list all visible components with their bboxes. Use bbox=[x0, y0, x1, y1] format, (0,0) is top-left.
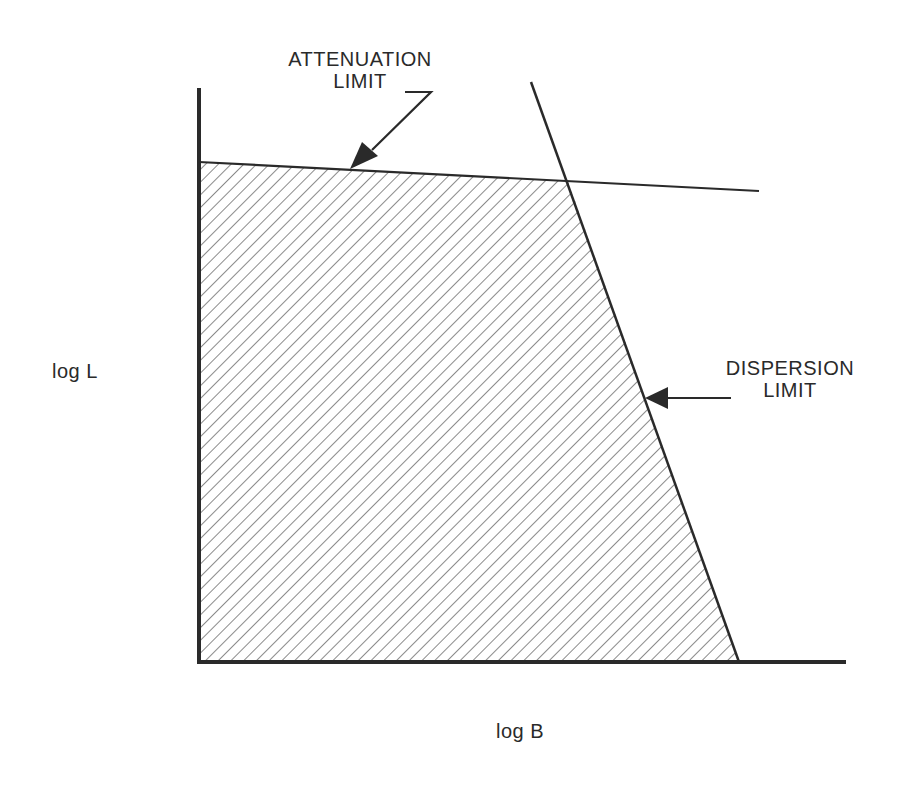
dispersion-label-line1: DISPERSION bbox=[700, 357, 880, 379]
attenuation-arrow-icon bbox=[350, 92, 431, 169]
attenuation-label-line1: ATTENUATION bbox=[255, 48, 465, 70]
allowed-region-hatch bbox=[199, 162, 739, 662]
x-axis-label: log B bbox=[470, 720, 570, 742]
dispersion-limit-label: DISPERSION LIMIT bbox=[700, 357, 880, 401]
attenuation-limit-label: ATTENUATION LIMIT bbox=[255, 48, 465, 92]
dispersion-label-line2: LIMIT bbox=[700, 379, 880, 401]
y-axis-label: log L bbox=[52, 360, 98, 382]
attenuation-label-line2: LIMIT bbox=[255, 70, 465, 92]
